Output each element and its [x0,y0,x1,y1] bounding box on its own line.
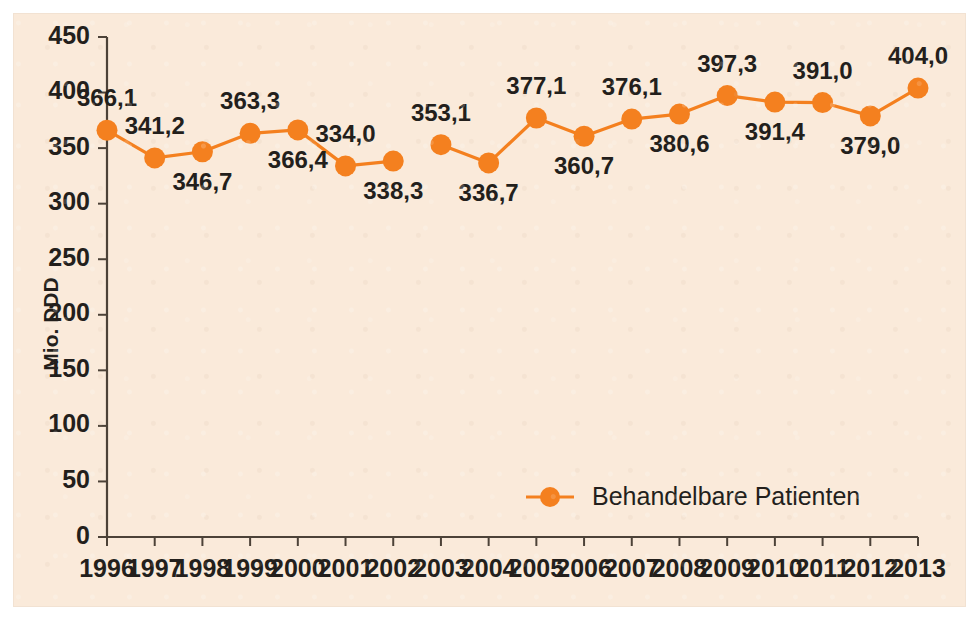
data-label-2009: 397,3 [697,50,757,77]
y-tick-label-450: 450 [48,21,90,49]
data-point-2012[interactable] [860,105,881,126]
data-label-2010: 391,4 [745,118,806,145]
data-label-2007: 376,1 [602,73,662,100]
y-tick-label-250: 250 [48,243,90,271]
y-tick-label-0: 0 [76,521,90,549]
data-label-1998: 346,7 [172,168,232,195]
data-label-2012: 379,0 [840,132,900,159]
data-label-2002: 338,3 [363,177,423,204]
data-point-2000[interactable] [287,119,308,140]
data-label-2008: 380,6 [649,130,709,157]
x-axis-ticks: 1996199719981999200020012002200320042005… [79,537,946,582]
y-tick-label-350: 350 [48,132,90,160]
data-point-1999[interactable] [240,123,261,144]
data-point-2006[interactable] [574,126,595,147]
data-label-2003: 353,1 [411,99,471,126]
y-tick-label-100: 100 [48,409,90,437]
line-chart: Mio. DDD 050100150200250300350400450 199… [14,14,965,606]
data-point-1998[interactable] [192,141,213,162]
data-label-1999: 363,3 [220,87,280,114]
chart-legend: Behandelbare Patienten [526,482,860,510]
data-point-2001[interactable] [335,155,356,176]
x-tick-label-2013: 2013 [890,554,946,582]
data-point-2008[interactable] [669,104,690,125]
data-label-1997: 341,2 [125,112,185,139]
data-label-2004: 336,7 [459,179,519,206]
data-point-2003[interactable] [430,134,451,155]
data-point-2011[interactable] [812,92,833,113]
legend-marker-dot [540,487,560,507]
data-label-2005: 377,1 [506,72,566,99]
y-tick-label-200: 200 [48,298,90,326]
data-point-2007[interactable] [621,109,642,130]
data-point-2013[interactable] [908,78,929,99]
data-point-2005[interactable] [526,108,547,129]
data-label-2013: 404,0 [888,42,948,69]
data-label-2000: 366,4 [268,146,329,173]
chart-card: Mio. DDD 050100150200250300350400450 199… [14,14,965,606]
data-labels-layer: 366,1341,2346,7363,3366,4334,0338,3353,1… [77,42,948,206]
data-label-1996: 366,1 [77,84,137,111]
data-point-2004[interactable] [478,152,499,173]
y-tick-label-300: 300 [48,187,90,215]
data-label-2011: 391,0 [793,57,853,84]
y-tick-label-50: 50 [62,465,90,493]
data-label-2006: 360,7 [554,152,614,179]
data-point-2010[interactable] [764,92,785,113]
data-point-2009[interactable] [717,85,738,106]
y-tick-label-150: 150 [48,354,90,382]
data-point-2002[interactable] [383,151,404,172]
data-point-1997[interactable] [144,147,165,168]
data-label-2001: 334,0 [315,120,375,147]
legend-label-behandelbare-patienten: Behandelbare Patienten [592,482,860,510]
x-tick-label-2010: 2010 [747,554,803,582]
data-point-1996[interactable] [97,120,118,141]
